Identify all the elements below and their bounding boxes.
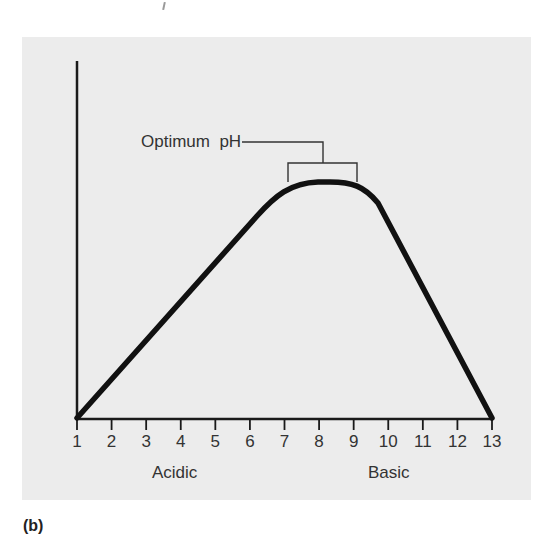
x-tick-label: 8: [304, 432, 334, 452]
x-tick-label: 6: [235, 432, 265, 452]
acidic-label: Acidic: [152, 463, 197, 483]
x-tick-label: 2: [97, 432, 127, 452]
x-tick-label: 1: [62, 432, 92, 452]
chart-plot: [0, 0, 557, 551]
x-tick-label: 10: [373, 432, 403, 452]
optimum-ph-label: Optimum pH: [141, 132, 241, 152]
x-tick-label: 13: [477, 432, 507, 452]
figure-caption: (b): [23, 517, 43, 535]
x-tick-label: 11: [408, 432, 438, 452]
x-tick-label: 9: [339, 432, 369, 452]
optimum-bracket: [242, 142, 357, 182]
x-tick-label: 7: [270, 432, 300, 452]
basic-label: Basic: [368, 463, 410, 483]
x-tick-label: 5: [200, 432, 230, 452]
x-tick-label: 12: [442, 432, 472, 452]
x-tick-label: 4: [166, 432, 196, 452]
activity-curve: [77, 182, 492, 418]
x-axis-ticks: [77, 419, 492, 430]
x-tick-label: 3: [131, 432, 161, 452]
